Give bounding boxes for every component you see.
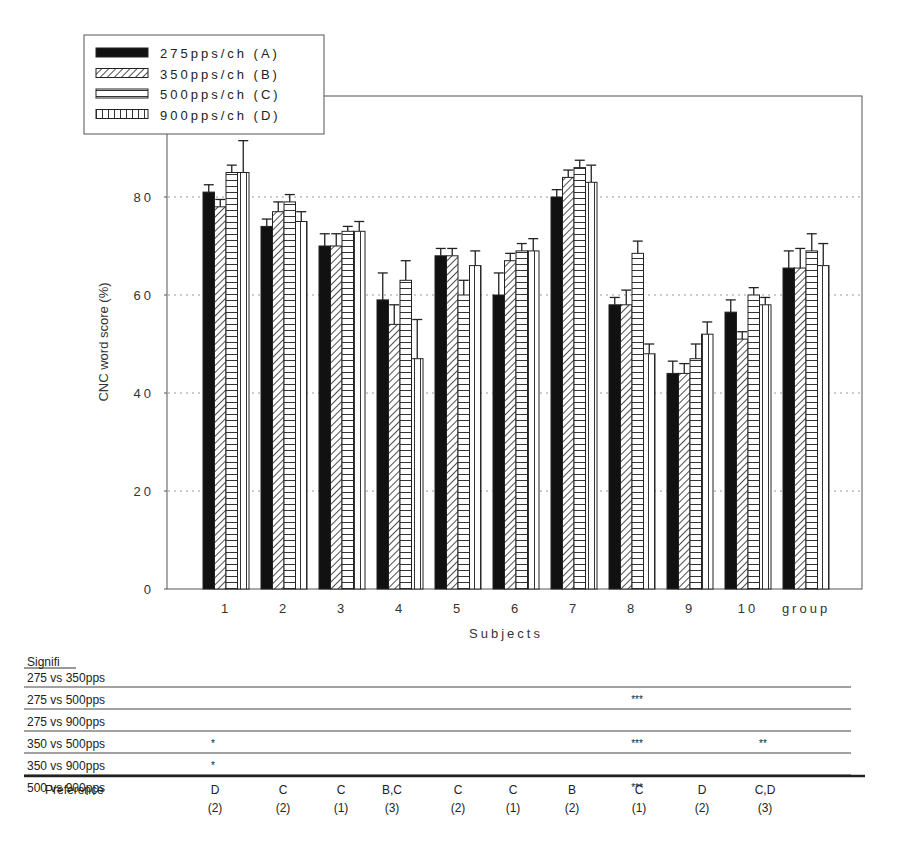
bar-d [412,359,424,589]
preference-choice: D [698,783,707,797]
bar-group-3 [319,222,365,590]
preference-choice: B,C [382,783,402,797]
legend-swatch [96,48,148,57]
legend-swatch [96,110,148,119]
bar-group-4 [377,261,423,589]
bar-d [644,354,656,589]
bar-b [621,305,633,589]
bar-a [261,226,273,589]
table-row-label: 275 vs 500pps [27,693,105,707]
preference-count: (2) [451,801,466,815]
significance-mark: *** [631,694,643,705]
preference-choice: B [568,783,576,797]
bar-b [331,246,343,589]
bar-a [377,300,389,589]
bar-c [458,295,470,589]
bar-group-1 [203,141,249,589]
significance-table: Signifi275 vs 350pps275 vs 500pps***275 … [24,655,865,815]
preference-count: (1) [334,801,349,815]
legend-swatch [96,69,148,78]
bar-b [737,339,749,589]
bar-groups [203,141,829,589]
x-tick-label: 5 [453,601,463,616]
bar-a [609,305,621,589]
x-tick-label: 6 [511,601,521,616]
bar-c [574,168,586,589]
bar-c [400,280,412,589]
preference-count: (3) [758,801,773,815]
significance-mark: * [211,760,215,771]
preference-count: (3) [385,801,400,815]
bar-a [435,256,447,589]
x-tick-label: 9 [685,601,695,616]
preference-count: (2) [276,801,291,815]
table-header: Signifi [27,655,60,669]
x-tick-label: 1 [221,601,231,616]
bar-b [679,373,691,589]
bar-a [319,246,331,589]
bar-b [447,256,459,589]
preference-choice: C,D [755,783,776,797]
table-row-label: 350 vs 900pps [27,759,105,773]
bar-group-group [783,234,829,589]
x-tick-label: 7 [569,601,579,616]
bar-c [806,251,818,589]
preference-label: Preference [45,783,104,797]
bar-a [667,373,679,589]
preference-choice: C [279,783,288,797]
bar-b [505,261,517,589]
preference-count: (1) [506,801,521,815]
bar-c [516,251,528,589]
y-tick-label: 0 [144,582,154,597]
bar-d [528,251,540,589]
bar-c [284,202,296,589]
preference-choice: C [509,783,518,797]
bar-c [342,231,354,589]
y-tick-label: 80 [134,190,154,205]
significance-mark: * [211,738,215,749]
bar-d [702,334,714,589]
significance-mark: *** [631,738,643,749]
bar-d [470,266,482,589]
bar-b [563,177,575,589]
y-tick-label: 40 [134,386,154,401]
bar-a [551,197,563,589]
bar-group-2 [261,195,307,589]
legend-label: 900pps/ch (D) [160,108,281,123]
legend-swatch [96,89,148,98]
bar-group-9 [667,322,713,589]
x-tick-label: 10 [738,601,758,616]
preference-count: (1) [632,801,647,815]
bar-c [748,295,760,589]
x-tick-label: 3 [337,601,347,616]
bar-group-7 [551,160,597,589]
table-row-label: 350 vs 500pps [27,737,105,751]
preference-choice: C [337,783,346,797]
bar-d [354,231,366,589]
x-axis-title: Subjects [469,626,543,641]
bar-group-10 [725,288,771,589]
bar-d [760,305,772,589]
preference-count: (2) [208,801,223,815]
bar-a [203,192,215,589]
table-row-label: 275 vs 350pps [27,671,105,685]
y-axis-title: CNC word score (%) [96,282,111,401]
significance-mark: ** [759,738,767,749]
y-axis-ticks: 020406080 [134,190,167,597]
figure: 020406080 12345678910group CNC word scor… [0,0,906,848]
legend-label: 500pps/ch (C) [160,87,281,102]
preference-choice: C [454,783,463,797]
x-tick-label: 8 [627,601,637,616]
legend-label: 350pps/ch (B) [160,67,280,82]
bar-group-8 [609,241,655,589]
bar-c [226,173,238,590]
table-row-label: 275 vs 900pps [27,715,105,729]
bar-d [818,266,830,589]
legend: 275pps/ch (A)350pps/ch (B)500pps/ch (C)9… [84,35,324,134]
legend-label: 275pps/ch (A) [160,46,280,61]
x-tick-label: group [782,601,830,616]
bar-b [215,207,227,589]
bar-a [493,295,505,589]
preference-count: (2) [565,801,580,815]
bar-a [725,312,737,589]
